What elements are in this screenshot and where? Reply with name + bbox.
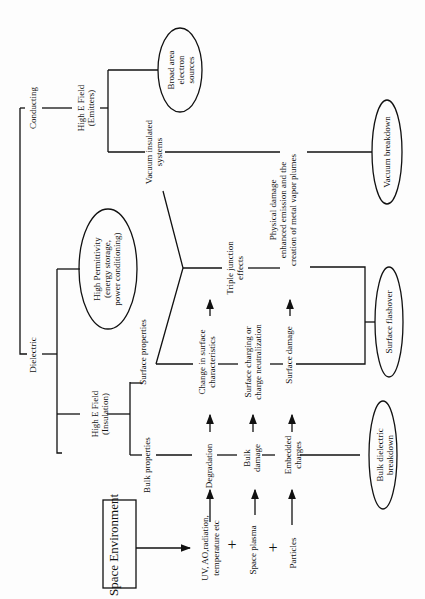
surface-damage-label: Surface damage xyxy=(284,326,294,384)
embedded-label-1: Embedded xyxy=(283,435,293,474)
dielectric-label: Dielectric xyxy=(28,337,38,372)
bulk-breakdown-label-1: Bulk dielectric xyxy=(375,428,385,481)
surface-charging-label-2: charge neutralization xyxy=(253,324,263,400)
high-e-insulation-label-1: High E Field xyxy=(90,390,100,437)
high-permittivity-label-2: (energy storage, xyxy=(102,240,112,298)
dielectric-vertical xyxy=(20,108,27,354)
space-plasma-label: Space plasma xyxy=(248,525,258,574)
high-e-insulation-label-2: (Insulation) xyxy=(100,393,110,435)
surface-properties-label: Surface properties xyxy=(138,319,148,385)
high-permittivity-label-3: power conditioning) xyxy=(112,232,122,305)
triple-junction-label-1: Triple junction xyxy=(225,241,235,295)
bulk-properties-label: Bulk properties xyxy=(142,437,152,493)
physical-damage-label-3: creation of metal vapor plumes xyxy=(288,154,298,266)
flashover-bracket xyxy=(296,267,365,364)
high-e-emitters-label-2: (Emitters) xyxy=(86,90,96,127)
diagram-canvas: Space Environment UV, AO,radiation, temp… xyxy=(0,0,425,599)
broad-area-label-2: electron xyxy=(176,55,186,84)
change-surface-label-1: Change in surface xyxy=(197,330,207,395)
diagram-svg: Space Environment UV, AO,radiation, temp… xyxy=(0,0,425,599)
plus-2: + xyxy=(268,539,277,556)
plus-1: + xyxy=(227,536,236,553)
surface-flashover-label: Surface flashover xyxy=(384,290,394,353)
uv-label-2: temperature etc xyxy=(211,520,221,576)
bulk-damage-label-2: damage xyxy=(252,444,262,472)
vacuum-breakdown-label: Vacuum breakdown xyxy=(382,116,392,188)
vacuum-insulated-label-2: systems xyxy=(154,137,164,166)
particles-label: Particles xyxy=(288,537,298,568)
change-surface-label-2: characteristics xyxy=(207,336,217,388)
broad-area-label-1: Broad area xyxy=(166,50,176,89)
surface-charging-label-1: Surface charging or xyxy=(243,327,253,398)
high-permittivity-label-1: High Permittivity xyxy=(92,237,102,301)
triple-v-lines xyxy=(156,191,183,364)
bulk-breakdown-label-2: breakdown xyxy=(385,435,395,475)
high-e-emitters-label-1: High E Field xyxy=(76,84,86,131)
insulation-bracket xyxy=(57,414,62,453)
broad-area-label-3: sources xyxy=(186,56,196,83)
conducting-label: Conducting xyxy=(28,87,38,129)
bulk-damage-label-1: Bulk xyxy=(242,449,252,467)
degradation-label: Degradation xyxy=(204,443,214,488)
uv-label-1: UV, AO,radiation, xyxy=(200,515,210,580)
space-environment-label: Space Environment xyxy=(106,494,121,597)
physical-damage-label-1: Physical damage xyxy=(268,180,278,241)
vacuum-insulated-label-1: Vacuum insulated xyxy=(144,119,154,184)
physical-damage-label-2: enhanced emission and the xyxy=(278,162,288,259)
triple-junction-label-2: effects xyxy=(235,256,245,280)
